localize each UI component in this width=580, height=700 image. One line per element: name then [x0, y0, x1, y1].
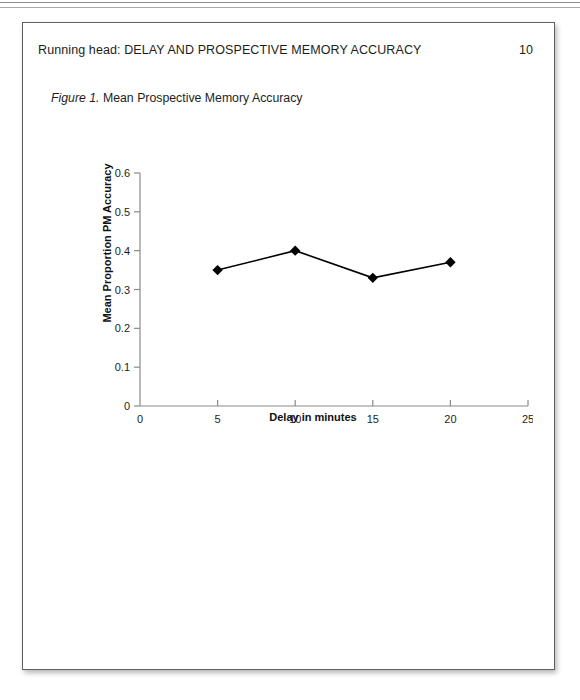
figure-label: Figure 1. — [51, 91, 100, 105]
y-axis-ticks: 00.10.20.30.40.50.6 — [115, 167, 140, 412]
y-tick-label: 0.6 — [115, 167, 130, 179]
y-tick-label: 0.1 — [115, 361, 130, 373]
y-tick-label: 0.2 — [115, 322, 130, 334]
line-chart: Mean Proportion PM Accuracy Delay in min… — [53, 133, 533, 433]
data-series-line — [218, 251, 451, 278]
y-tick-label: 0.5 — [115, 206, 130, 218]
document-page: Running head: DELAY AND PROSPECTIVE MEMO… — [22, 22, 555, 670]
x-axis-title: Delay in minutes — [113, 411, 513, 423]
scan-artifact-rule-top — [0, 2, 580, 3]
data-point-marker — [445, 257, 455, 267]
scan-artifact-rule-second — [0, 7, 580, 8]
y-tick-label: 0.4 — [115, 245, 130, 257]
page-number: 10 — [519, 43, 533, 57]
y-axis-group: 00.10.20.30.40.50.6 — [115, 167, 140, 412]
data-point-marker — [368, 273, 378, 283]
running-head: Running head: DELAY AND PROSPECTIVE MEMO… — [38, 43, 422, 57]
data-point-marker — [212, 265, 222, 275]
figure-caption: Figure 1. Mean Prospective Memory Accura… — [51, 91, 303, 105]
y-tick-label: 0.3 — [115, 284, 130, 296]
x-tick-label: 25 — [522, 413, 533, 425]
chart-plot-svg: 00.10.20.30.40.50.6 0510152025 — [53, 133, 533, 433]
y-axis-title: Mean Proportion PM Accuracy — [101, 153, 113, 333]
figure-title: Mean Prospective Memory Accuracy — [103, 91, 303, 105]
data-point-marker — [290, 245, 300, 255]
